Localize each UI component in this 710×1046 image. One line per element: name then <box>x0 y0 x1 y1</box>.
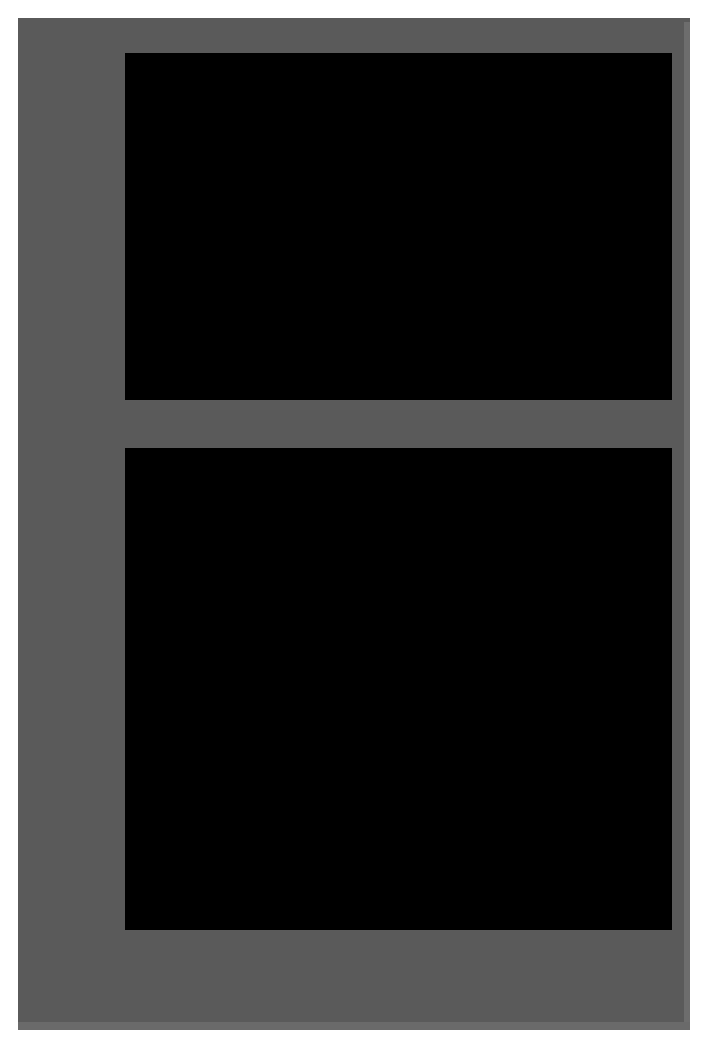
bottom-panel <box>125 448 672 930</box>
figure-container <box>0 0 710 1046</box>
top-plot-background <box>125 53 672 400</box>
total-kcal-annotation <box>253 855 541 904</box>
top-panel <box>125 53 672 400</box>
chart-svg <box>0 0 710 1046</box>
total-kcal-box <box>253 855 541 904</box>
